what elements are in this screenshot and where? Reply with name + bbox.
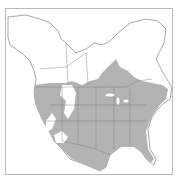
map-frame: Species range map — North America — [5, 8, 173, 175]
range-map — [6, 9, 173, 175]
